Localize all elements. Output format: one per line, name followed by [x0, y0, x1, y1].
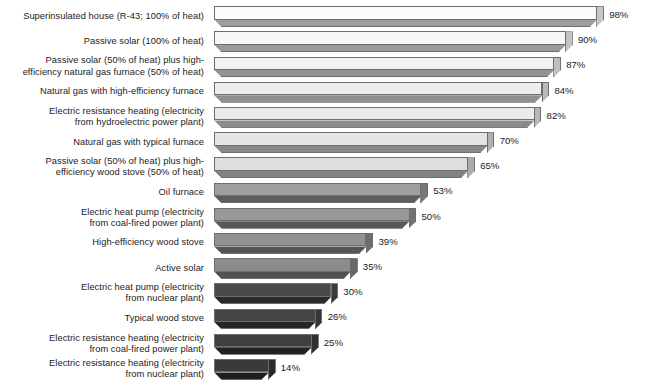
bar-front-face	[214, 233, 366, 246]
bar	[214, 107, 535, 128]
bar	[214, 359, 269, 380]
bar-value-label: 39%	[378, 237, 397, 247]
bar-front-face	[214, 57, 554, 70]
bar-category-label-line: Electric heat pump (electricity	[0, 282, 204, 293]
bar-category-label-line: Passive solar (50% of heat) plus high-	[0, 55, 204, 66]
bar-bottom-face	[214, 322, 316, 329]
bar-end-cap	[311, 334, 319, 355]
bar	[214, 57, 554, 78]
bar-front-face	[214, 31, 566, 44]
bar-row: Typical wood stove26%	[0, 306, 657, 331]
bar-value-label: 30%	[343, 287, 362, 297]
bar	[214, 157, 468, 178]
bar-category-label-line: Electric resistance heating (electricity	[0, 333, 204, 344]
bar-front-face	[214, 258, 351, 271]
bar-front-face	[214, 334, 312, 347]
bar-category-label: Electric heat pump (electricityfrom coal…	[0, 206, 204, 229]
bar-value-label: 82%	[547, 111, 566, 121]
bar	[214, 208, 410, 229]
bar-category-label-line: Passive solar (100% of heat)	[0, 36, 204, 47]
bar-value-label: 87%	[566, 60, 585, 70]
bar-category-label-line: efficiency wood stove (50% of heat)	[0, 167, 204, 178]
bar-row: Passive solar (50% of heat) plus high-ef…	[0, 54, 657, 79]
bar-value-label: 90%	[578, 35, 597, 45]
bar-end-cap	[331, 283, 339, 304]
bar-category-label: High-efficiency wood stove	[0, 231, 204, 249]
bar	[214, 309, 316, 330]
bar-bottom-face	[214, 20, 597, 27]
bar-row: Electric resistance heating (electricity…	[0, 357, 657, 382]
bar-category-label-line: Electric resistance heating (electricity	[0, 106, 204, 117]
bar-front-face	[214, 183, 421, 196]
bar	[214, 6, 597, 27]
bar-category-label: Electric resistance heating (electricity…	[0, 332, 204, 355]
bar-row: Active solar35%	[0, 256, 657, 281]
bar-value-label: 50%	[422, 212, 441, 222]
bar-category-label-line: from nuclear plant)	[0, 293, 204, 304]
bar-bottom-face	[214, 246, 366, 253]
bar-category-label-line: Superinsulated house (R-43; 100% of heat…	[0, 11, 204, 22]
bar-end-cap	[596, 6, 604, 27]
bar	[214, 31, 566, 52]
bar-bottom-face	[214, 221, 410, 228]
bar-category-label-line: from nuclear plant)	[0, 369, 204, 380]
bar-row: Electric resistance heating (electricity…	[0, 332, 657, 357]
bar-value-label: 25%	[324, 338, 343, 348]
bar-end-cap	[350, 258, 358, 279]
bar-front-face	[214, 132, 488, 145]
bar-row: Electric heat pump (electricityfrom coal…	[0, 206, 657, 231]
bar-row: Electric heat pump (electricityfrom nucl…	[0, 281, 657, 306]
bar-category-label: Active solar	[0, 256, 204, 274]
bar-front-face	[214, 107, 535, 120]
bar-front-face	[214, 359, 269, 372]
bar-value-label: 14%	[281, 363, 300, 373]
bar-value-label: 70%	[500, 136, 519, 146]
bar-bottom-face	[214, 196, 421, 203]
bar-category-label-line: High-efficiency wood stove	[0, 237, 204, 248]
bar-value-label: 26%	[328, 312, 347, 322]
bar-row: Passive solar (100% of heat)90%	[0, 29, 657, 54]
bar-category-label-line: Electric heat pump (electricity	[0, 207, 204, 218]
bar-bottom-face	[214, 297, 331, 304]
bar-category-label: Passive solar (50% of heat) plus high-ef…	[0, 155, 204, 178]
bar-end-cap	[420, 183, 428, 204]
bar-category-label: Natural gas with typical furnace	[0, 130, 204, 148]
bar-category-label-line: Natural gas with high-efficiency furnace	[0, 86, 204, 97]
bar-value-label: 98%	[609, 10, 628, 20]
bar-end-cap	[534, 107, 542, 128]
bar-category-label-line: from coal-fired power plant)	[0, 218, 204, 229]
bar	[214, 283, 331, 304]
bar-bottom-face	[214, 171, 468, 178]
bar-bottom-face	[214, 272, 351, 279]
bar	[214, 233, 366, 254]
bar-category-label-line: from coal-fired power plant)	[0, 344, 204, 355]
bar-value-label: 84%	[554, 86, 573, 96]
bar-row: Electric resistance heating (electricity…	[0, 105, 657, 130]
bar-value-label: 53%	[433, 186, 452, 196]
bar-category-label-line: Typical wood stove	[0, 313, 204, 324]
bar-category-label: Passive solar (100% of heat)	[0, 29, 204, 47]
bar-value-label: 65%	[480, 161, 499, 171]
bar-row: Natural gas with typical furnace70%	[0, 130, 657, 155]
bar-front-face	[214, 208, 410, 221]
bar	[214, 183, 421, 204]
bar-bottom-face	[214, 347, 312, 354]
bar-category-label-line: efficiency natural gas furnace (50% of h…	[0, 67, 204, 78]
bar-category-label-line: Natural gas with typical furnace	[0, 137, 204, 148]
bar-category-label: Electric heat pump (electricityfrom nucl…	[0, 281, 204, 304]
bar-bottom-face	[214, 146, 488, 153]
bar-row: Oil furnace53%	[0, 180, 657, 205]
bar-category-label-line: Electric resistance heating (electricity	[0, 358, 204, 369]
bar	[214, 334, 312, 355]
bar-front-face	[214, 283, 331, 296]
bar-value-label: 35%	[363, 262, 382, 272]
bar	[214, 258, 351, 279]
bar-row: Superinsulated house (R-43; 100% of heat…	[0, 4, 657, 29]
bar-row: High-efficiency wood stove39%	[0, 231, 657, 256]
bar-row: Natural gas with high-efficiency furnace…	[0, 80, 657, 105]
bar-end-cap	[542, 82, 550, 103]
bar-front-face	[214, 82, 542, 95]
bar-end-cap	[565, 31, 573, 52]
bar-row: Passive solar (50% of heat) plus high-ef…	[0, 155, 657, 180]
bar-category-label: Passive solar (50% of heat) plus high-ef…	[0, 54, 204, 77]
